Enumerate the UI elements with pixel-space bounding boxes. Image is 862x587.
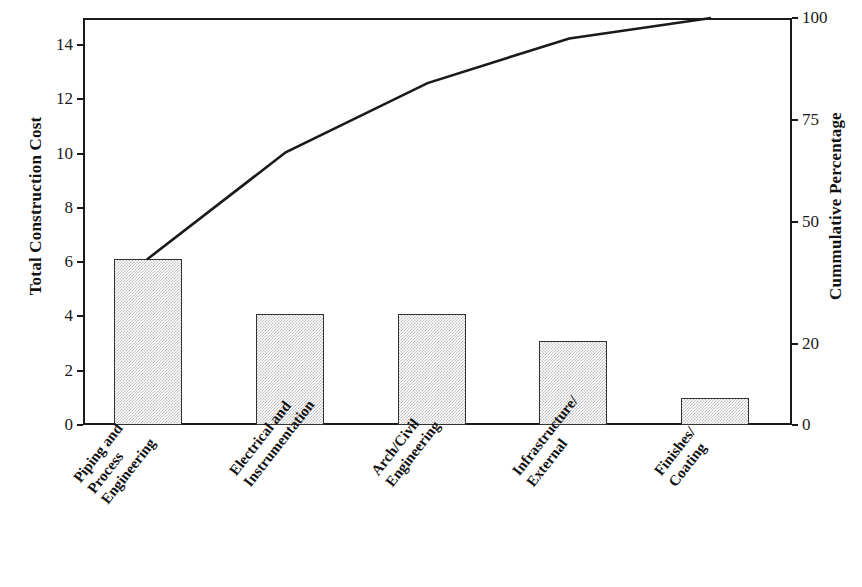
y-tick-mark-right — [792, 17, 798, 19]
y-tick-label-left-14: 14 — [33, 36, 73, 53]
y-tick-label-left-0: 0 — [33, 416, 73, 433]
y-tick-mark-left — [77, 424, 83, 426]
y-tick-label-right-100: 100 — [802, 9, 844, 26]
y-tick-label-right-50: 50 — [802, 213, 844, 230]
y-tick-mark-right — [792, 343, 798, 345]
pareto-chart: Total Construction Cost Cummulative Perc… — [0, 0, 862, 587]
bar-5 — [681, 398, 749, 425]
y-tick-label-left-8: 8 — [33, 199, 73, 216]
y-tick-label-left-12: 12 — [33, 90, 73, 107]
y-tick-mark-left — [77, 370, 83, 372]
y-tick-mark-left — [77, 207, 83, 209]
y-tick-label-left-2: 2 — [33, 362, 73, 379]
y-tick-label-right-75: 75 — [802, 111, 844, 128]
y-tick-label-right-20: 20 — [802, 335, 844, 352]
bar-1 — [114, 259, 182, 425]
y-tick-mark-right — [792, 119, 798, 121]
bar-3 — [398, 314, 466, 425]
y-tick-mark-right — [792, 424, 798, 426]
x-category-label-5: Finishes/Coating — [651, 424, 714, 490]
y-tick-label-right-0: 0 — [802, 416, 844, 433]
y-tick-label-left-10: 10 — [33, 145, 73, 162]
y-tick-mark-left — [77, 153, 83, 155]
y-tick-mark-left — [77, 315, 83, 317]
y-tick-mark-left — [77, 98, 83, 100]
y-tick-label-left-4: 4 — [33, 307, 73, 324]
y-tick-label-left-6: 6 — [33, 253, 73, 270]
y-tick-mark-left — [77, 44, 83, 46]
y-tick-mark-left — [77, 261, 83, 263]
y-tick-mark-right — [792, 221, 798, 223]
x-category-label-1: Piping andProcessEngineering — [70, 414, 160, 508]
